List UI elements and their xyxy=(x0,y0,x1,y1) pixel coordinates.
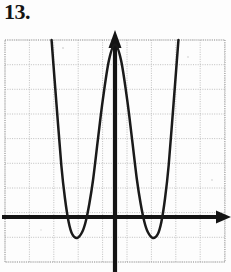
problem-number-label: 13. xyxy=(4,1,30,23)
worksheet-page: 13. xyxy=(0,0,231,272)
x-axis-arrowhead xyxy=(216,211,231,224)
graph-plate xyxy=(0,30,231,272)
coordinate-graph xyxy=(0,30,231,272)
axes-group xyxy=(2,30,231,272)
